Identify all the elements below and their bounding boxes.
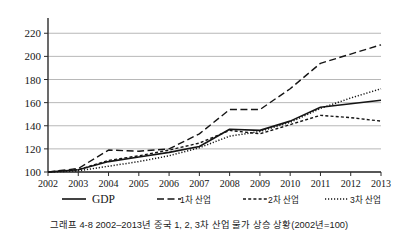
y-tick-label: 100 — [25, 166, 42, 178]
y-tick-label: 220 — [25, 27, 42, 39]
x-tick-label: 2007 — [189, 178, 209, 189]
x-tick-label: 2003 — [68, 178, 88, 189]
y-tick-label: 140 — [25, 120, 42, 132]
x-tick-label: 2009 — [250, 178, 270, 189]
series-line-1차-산업 — [48, 45, 381, 172]
legend-group: GDP1차 산업2차 산업3차 산업 — [62, 193, 381, 205]
y-tick-label: 120 — [25, 143, 42, 155]
series-line-2차-산업 — [48, 115, 381, 172]
plot-area-wrapper: 100120140160180200220 200220032004200520… — [0, 0, 399, 236]
x-axis-ticks-group: 2002200320042005200620072008200920102011… — [38, 172, 391, 189]
y-tick-label: 180 — [25, 74, 42, 86]
legend-label-2차-산업: 2차 산업 — [268, 195, 299, 205]
chart-figure: 100120140160180200220 200220032004200520… — [0, 0, 399, 236]
x-tick-label: 2013 — [371, 178, 391, 189]
x-tick-label: 2010 — [280, 178, 300, 189]
y-axis-ticks-group: 100120140160180200220 — [25, 27, 49, 178]
series-line-GDP — [48, 100, 381, 172]
legend-label-3차-산업: 3차 산업 — [350, 195, 381, 205]
x-tick-label: 2006 — [159, 178, 179, 189]
figure-caption: 그래프 4-8 2002–2013년 중국 1, 2, 3차 산업 물가 상승 … — [50, 219, 348, 230]
gridlines-group — [48, 33, 381, 172]
x-tick-label: 2002 — [38, 178, 58, 189]
x-tick-label: 2008 — [220, 178, 240, 189]
series-line-3차-산업 — [48, 89, 381, 172]
x-tick-label: 2011 — [311, 178, 331, 189]
y-tick-label: 160 — [25, 97, 42, 109]
x-tick-label: 2012 — [341, 178, 361, 189]
legend-label-1차-산업: 1차 산업 — [180, 195, 211, 205]
x-tick-label: 2005 — [129, 178, 149, 189]
data-series-group — [48, 45, 381, 172]
y-tick-label: 200 — [25, 50, 42, 62]
x-tick-label: 2004 — [99, 178, 119, 189]
legend-label-GDP: GDP — [92, 193, 115, 205]
line-chart-svg: 100120140160180200220 200220032004200520… — [0, 0, 399, 236]
